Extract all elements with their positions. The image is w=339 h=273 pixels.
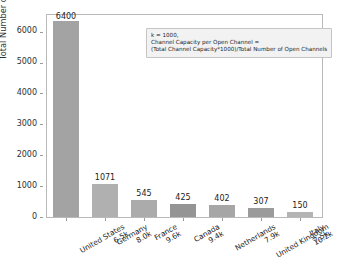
- bar-netherlands: [209, 205, 235, 217]
- bar-italy: [287, 212, 313, 217]
- bar-united-kingdom: [248, 208, 274, 217]
- bar-value-united-kingdom: 307: [253, 197, 268, 206]
- bar-united-states: [53, 21, 79, 217]
- x-label-united-states: United States 6.5k: [79, 223, 131, 263]
- x-label-france: France 9.6k: [153, 223, 183, 250]
- annotation-line-3: (Total Channel Capacity*1000)/Total Numb…: [151, 46, 327, 53]
- x-label-canada: Canada 9.4k: [193, 223, 226, 252]
- x-label-netherlands: Netherlands 7.9k: [234, 223, 281, 260]
- bar-france: [131, 200, 157, 217]
- bar-germany: [92, 184, 118, 217]
- bar-value-united-states: 6400: [56, 12, 76, 21]
- x-label-united-kingdom: United Kingdom 10.2k: [275, 223, 335, 267]
- x-label-germany: Germany 8.0k: [116, 223, 154, 255]
- bar-chart-figure: Total Number of Open Channels 0 1000 200…: [0, 0, 339, 273]
- annotation-line-1: k = 1000,: [151, 32, 327, 39]
- bar-slot-germany: 1071: [92, 15, 118, 217]
- x-label-italy: Italy 7.5k: [308, 223, 330, 246]
- annotation-line-2: Channel Capacity per Open Channel =: [151, 39, 327, 46]
- bar-value-germany: 1071: [95, 173, 115, 182]
- bar-value-italy: 150: [292, 201, 307, 210]
- bar-canada: [170, 204, 196, 217]
- y-axis-ticks: 0 1000 2000 3000 4000 5000 6000: [0, 14, 43, 218]
- bar-value-canada: 425: [175, 193, 190, 202]
- formula-annotation-box: k = 1000, Channel Capacity per Open Chan…: [146, 28, 332, 58]
- x-axis-ticks: [47, 218, 322, 222]
- bar-value-netherlands: 402: [214, 194, 229, 203]
- bar-slot-united-states: 6400: [53, 15, 79, 217]
- bar-value-france: 545: [136, 189, 151, 198]
